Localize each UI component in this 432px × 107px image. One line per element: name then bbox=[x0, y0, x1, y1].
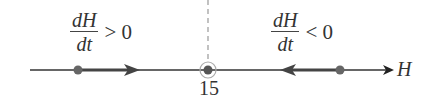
right-derivative-label: dH dt < 0 bbox=[271, 10, 333, 54]
right-point bbox=[336, 66, 345, 75]
left-derivative-label: dH dt > 0 bbox=[70, 10, 132, 54]
left-point bbox=[74, 66, 83, 75]
axis-label: H bbox=[397, 58, 411, 81]
equilibrium-value-label: 15 bbox=[199, 77, 219, 100]
equilibrium-point bbox=[204, 66, 213, 75]
